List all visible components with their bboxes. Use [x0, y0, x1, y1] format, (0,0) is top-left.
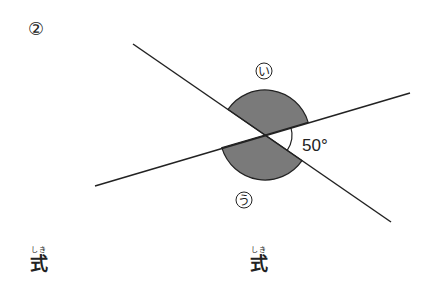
formula-kanji: 式 [250, 254, 268, 274]
formula-label-left: しき 式 [30, 247, 48, 274]
label-i: い [256, 63, 272, 79]
svg-text:う: う [238, 194, 250, 208]
shaded-angle-i [228, 90, 308, 135]
svg-text:い: い [258, 65, 270, 79]
formula-label-right: しき 式 [250, 247, 268, 274]
given-angle-arc [287, 127, 292, 150]
shaded-angle-u [222, 135, 302, 180]
label-u: う [236, 192, 252, 208]
formula-kanji: 式 [30, 254, 48, 274]
given-angle-label: 50° [302, 136, 328, 155]
intersecting-lines-diagram: い う 50° [0, 0, 431, 291]
